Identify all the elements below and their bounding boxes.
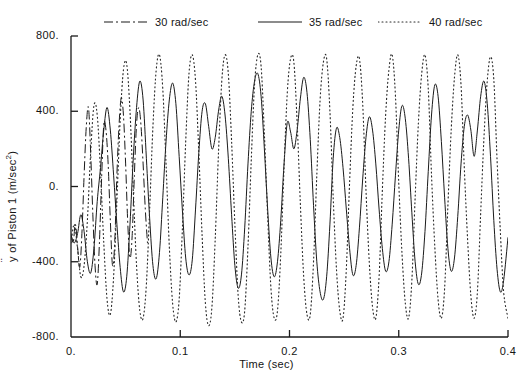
y-tick-label-0: 800. (36, 29, 59, 41)
chart-legend: 30 rad/sec 35 rad/sec 40 rad/sec (0, 10, 521, 34)
legend-label-35-rad-sec: 35 rad/sec (309, 16, 362, 28)
axis-layer (71, 36, 508, 337)
y-tick-label-3: -400. (32, 255, 59, 267)
legend-line-sample-dashdot (104, 17, 148, 27)
legend-entry-35-rad-sec: 35 rad/sec (258, 16, 362, 28)
x-tick-label-0: 0. (51, 345, 91, 357)
y-axis-title: y of Piston 1 (m/sec2) (4, 151, 18, 262)
y-axis-title-exponent: 2 (4, 155, 13, 160)
legend-entry-40-rad-sec: 40 rad/sec (378, 16, 482, 28)
y-tick-label-4: -800. (32, 330, 59, 342)
series-line-40-rad-sec (71, 53, 508, 325)
series-layer (71, 53, 508, 325)
x-tick-label-2: 0.2 (270, 345, 310, 357)
chart-figure: 30 rad/sec 35 rad/sec 40 rad/sec 800.400… (0, 0, 521, 381)
legend-line-sample-dotted (378, 17, 422, 27)
x-axis-title: Time (sec) (6, 358, 521, 370)
x-tick-label-1: 0.1 (160, 345, 200, 357)
legend-entry-30-rad-sec: 30 rad/sec (104, 16, 208, 28)
x-tick-label-3: 0.3 (379, 345, 419, 357)
y-axis-title-rest: of Piston 1 (m/sec (6, 159, 18, 256)
y-tick-label-1: 400. (36, 104, 59, 116)
legend-label-40-rad-sec: 40 rad/sec (429, 16, 482, 28)
x-tick-label-4: 0.4 (488, 345, 521, 357)
legend-line-sample-solid (258, 17, 302, 27)
plot-area (0, 0, 521, 381)
y-axis-title-close: ) (6, 151, 18, 155)
y-axis-symbol: y (6, 256, 18, 262)
y-tick-label-2: 0. (49, 180, 59, 192)
legend-label-30-rad-sec: 30 rad/sec (155, 16, 208, 28)
